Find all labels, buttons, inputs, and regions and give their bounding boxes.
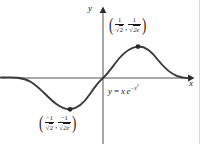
max-point-marker <box>136 44 141 49</box>
figure-right-border <box>199 0 200 144</box>
max-x-fraction: 1 √2 <box>115 17 124 33</box>
min-x-denominator: √2 <box>45 122 54 131</box>
equation-y: y <box>108 86 112 96</box>
min-x-fraction: −1 √2 <box>45 115 54 131</box>
max-comma: , <box>125 24 127 33</box>
y-axis-label: y <box>88 4 92 13</box>
min-y-denominator: √2e <box>58 122 70 131</box>
sqrt-icon: √2e <box>129 25 139 33</box>
x-axis-label: x <box>189 79 193 88</box>
min-point-marker <box>68 107 73 112</box>
min-close-paren: ) <box>72 116 76 130</box>
function-graph-figure: y x ( 1 √2 , 1 √2e ) ( −1 √2 , <box>0 0 205 144</box>
min-point-label: ( −1 √2 , −1 √2e ) <box>38 115 77 131</box>
min-comma: , <box>55 122 57 131</box>
equation-equals: = <box>114 86 119 96</box>
equation-label: y=xe−x2 <box>108 84 139 96</box>
min-open-paren: ( <box>39 116 43 130</box>
max-x-denominator: √2 <box>115 24 124 33</box>
max-open-paren: ( <box>109 18 113 32</box>
equation-x-factor: x <box>121 86 125 96</box>
min-y-fraction: −1 √2e <box>58 115 70 131</box>
max-close-paren: ) <box>142 18 146 32</box>
sqrt-icon: √2e <box>59 123 69 131</box>
sqrt-icon: √2 <box>116 25 123 33</box>
max-y-fraction: 1 √2e <box>128 17 140 33</box>
min-x-numerator: −1 <box>45 115 54 122</box>
max-x-numerator: 1 <box>117 17 122 24</box>
max-y-numerator: 1 <box>132 17 137 24</box>
max-point-label: ( 1 √2 , 1 √2e ) <box>108 17 147 33</box>
y-axis-arrowhead <box>100 7 107 14</box>
equation-exponent: −x2 <box>131 85 139 91</box>
equation-exp-power: 2 <box>137 83 139 88</box>
sqrt-icon: √2 <box>46 123 53 131</box>
plot-canvas <box>0 0 205 144</box>
min-y-numerator: −1 <box>60 115 69 122</box>
max-y-denominator: √2e <box>128 24 140 33</box>
